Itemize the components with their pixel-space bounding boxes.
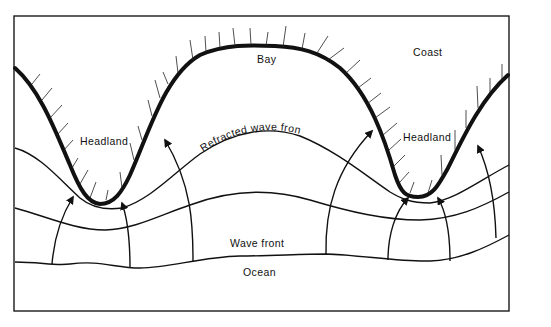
label-coast: Coast bbox=[413, 46, 442, 58]
label-ocean: Ocean bbox=[243, 266, 276, 278]
label-wave-front: Wave front bbox=[230, 237, 284, 249]
ray-bay-left bbox=[165, 140, 193, 261]
ray-left-2 bbox=[122, 203, 130, 268]
ray-right-1 bbox=[388, 198, 408, 260]
ray-far-right bbox=[478, 146, 496, 238]
ray-bay-right bbox=[326, 131, 372, 254]
ray-right-2 bbox=[438, 198, 450, 261]
ray-left-1 bbox=[52, 197, 73, 264]
label-headland-left: Headland bbox=[80, 135, 128, 147]
label-bay: Bay bbox=[257, 53, 277, 65]
label-headland-right: Headland bbox=[403, 131, 451, 143]
wave-refraction-diagram: Coast Bay Headland Headland Refracted wa… bbox=[0, 0, 551, 327]
label-refracted-wave-front: Refracted wave front bbox=[0, 0, 302, 154]
